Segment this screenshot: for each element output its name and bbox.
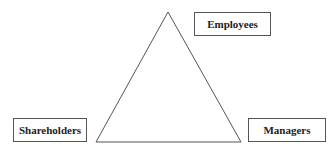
employees-box: Employees bbox=[194, 12, 271, 36]
managers-label: Managers bbox=[263, 124, 310, 136]
employees-label: Employees bbox=[207, 18, 258, 30]
shareholders-label: Shareholders bbox=[19, 124, 81, 136]
shareholders-box: Shareholders bbox=[13, 118, 87, 142]
managers-box: Managers bbox=[248, 118, 326, 142]
